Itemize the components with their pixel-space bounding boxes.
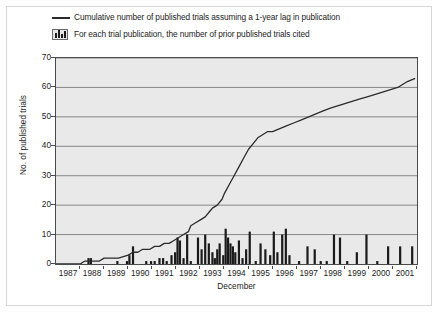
y-axis-tick-mark	[51, 145, 55, 146]
y-axis-tick-mark	[51, 86, 55, 87]
y-axis-tick-mark	[51, 175, 55, 176]
bar-series	[87, 229, 413, 264]
cumulative-line-series	[56, 79, 415, 264]
y-axis-tick-label: 20	[29, 200, 51, 209]
legend-item-prior-citations-bars: For each trial publication, the number o…	[52, 27, 422, 42]
legend-item-label: Cumulative number of published trials as…	[74, 12, 340, 23]
y-axis-tick-label: 60	[29, 82, 51, 91]
y-axis-tick-label: 50	[29, 112, 51, 121]
y-axis-tick-mark	[51, 263, 55, 264]
y-axis-tick-mark	[51, 204, 55, 205]
plot-area	[55, 57, 418, 265]
y-axis-tick-label: 30	[29, 171, 51, 180]
x-axis-tick-label: 2001	[385, 268, 425, 278]
legend-item-label: For each trial publication, the number o…	[74, 29, 310, 40]
chart-legend: Cumulative number of published trials as…	[52, 10, 422, 44]
plot-canvas	[56, 58, 417, 264]
y-axis-tick-mark	[51, 234, 55, 235]
line-swatch-icon	[52, 17, 74, 19]
x-axis-tick-mark	[416, 266, 417, 269]
bar-chart-swatch-icon	[52, 29, 74, 40]
chart-figure: Cumulative number of published trials as…	[0, 0, 438, 312]
y-axis-tick-label: 0	[29, 259, 51, 268]
x-axis-ticks: 1987198819891990199119921993199419951996…	[55, 266, 418, 280]
y-axis-tick-mark	[51, 116, 55, 117]
gridlines	[56, 58, 417, 235]
y-axis-tick-label: 40	[29, 141, 51, 150]
y-axis-tick-mark	[51, 57, 55, 58]
legend-item-cumulative-line: Cumulative number of published trials as…	[52, 10, 422, 25]
y-axis-title: No. of published trials	[18, 75, 28, 195]
y-axis-tick-label: 70	[29, 53, 51, 62]
y-axis-tick-label: 10	[29, 230, 51, 239]
x-axis-title: December	[55, 281, 418, 291]
